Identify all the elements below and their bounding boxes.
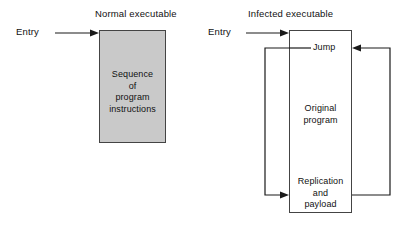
entry-arrow-normal — [55, 29, 99, 36]
original-program-label: Original program — [289, 103, 352, 126]
jump-segment-label: Jump — [313, 42, 335, 52]
replication-to-jump-arrow — [352, 44, 390, 195]
infected-executable-title: Infected executable — [248, 8, 333, 19]
normal-executable-block-text: Sequence of program instructions — [99, 69, 166, 115]
figure-canvas: Normal executable Entry Sequence of prog… — [0, 0, 408, 230]
normal-entry-label: Entry — [16, 26, 39, 37]
infected-entry-label: Entry — [208, 26, 231, 37]
normal-executable-title: Normal executable — [95, 8, 177, 19]
entry-arrow-infected — [246, 29, 289, 36]
replication-payload-label: Replication and payload — [289, 176, 352, 211]
jump-to-replication-arrow — [265, 48, 289, 199]
